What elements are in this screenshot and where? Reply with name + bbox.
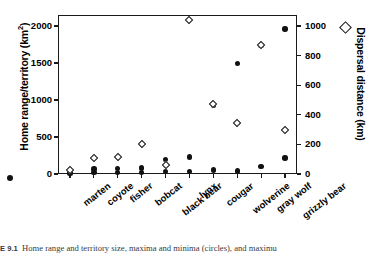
x-axis-tick-label: bobcat	[152, 180, 183, 208]
y-axis-tick-label: 500	[12, 131, 52, 142]
secondary-y-axis-tick	[297, 85, 301, 86]
y-axis-tick-label: 2000	[12, 20, 52, 31]
data-point-circle	[258, 164, 263, 169]
y-axis-tick	[54, 25, 58, 26]
y-axis-tick-label: 1000	[12, 94, 52, 105]
y-axis-tick	[54, 136, 58, 137]
secondary-y-axis-tick	[297, 55, 301, 56]
secondary-y-axis-tick-label: 1000	[305, 20, 345, 31]
x-axis-tick	[284, 174, 285, 178]
figure-caption: E 9.1 Home range and territory size, max…	[0, 243, 360, 253]
data-point-circle	[282, 155, 287, 160]
data-point-circle	[115, 170, 120, 175]
data-point-circle	[187, 154, 192, 159]
data-point-circle	[139, 170, 144, 175]
data-point-circle	[211, 167, 216, 172]
x-axis-tick	[261, 174, 262, 178]
secondary-y-axis-tick-label: 800	[305, 50, 345, 61]
secondary-y-axis-tick	[297, 25, 301, 26]
x-axis-tick-label: cougar	[224, 180, 256, 208]
y-axis-tick	[54, 173, 58, 174]
secondary-y-axis-tick-label: 0	[305, 168, 345, 179]
secondary-y-axis-tick-label: 600	[305, 79, 345, 90]
plot-area	[58, 15, 297, 174]
data-point-circle	[282, 26, 287, 31]
y-axis-tick-label: 0	[12, 168, 52, 179]
secondary-y-axis-tick	[297, 144, 301, 145]
data-point-circle	[91, 170, 96, 175]
x-axis-tick	[237, 174, 238, 178]
secondary-y-axis-tick	[297, 173, 301, 174]
secondary-y-axis-tick-label: 400	[305, 109, 345, 120]
data-point-circle	[235, 168, 240, 173]
y-axis-tick	[54, 99, 58, 100]
secondary-y-axis-tick-label: 200	[305, 138, 345, 149]
y-axis-tick-label: 1500	[12, 57, 52, 68]
x-axis-tick	[189, 174, 190, 178]
secondary-y-axis-tick	[297, 114, 301, 115]
x-axis-tick	[165, 174, 166, 178]
y-axis-tick	[54, 62, 58, 63]
secondary-y-axis-title: Dispersal distance (km)	[355, 0, 367, 169]
x-axis-tick	[213, 174, 214, 178]
